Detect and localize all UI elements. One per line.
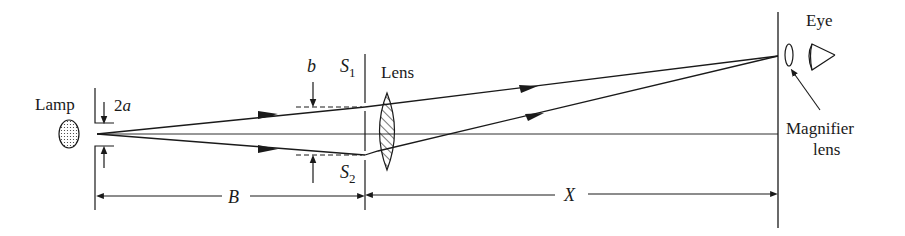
magnifier-pointer [793, 72, 820, 110]
source-slit [95, 88, 114, 210]
magnifier-label-line2: lens [813, 140, 840, 159]
ray-arrow-icon [258, 111, 278, 119]
lamp-label: Lamp [35, 95, 75, 114]
eye-icon [809, 44, 835, 70]
slit2-label: S2 [340, 162, 356, 186]
ray-arrow-icon [519, 85, 538, 93]
magnifier-lens-icon [785, 44, 793, 66]
slit-spacing-label: b [307, 56, 316, 76]
slit-spacing-markers [296, 107, 362, 155]
ray-arrow-icon [258, 145, 278, 153]
slit1-label: S1 [340, 56, 356, 80]
magnifier-label-line1: Magnifier [786, 119, 854, 138]
lamp-bulb-icon [59, 120, 79, 148]
incident-rays [97, 107, 365, 155]
eye-label: Eye [806, 11, 832, 30]
double-slit-diagram: Lamp 2a b S1 S2 Lens [0, 0, 905, 236]
lamp: Lamp [35, 95, 79, 148]
transmitted-rays [365, 56, 778, 155]
slit-width-label: 2a [114, 96, 131, 115]
lens-label: Lens [381, 63, 414, 82]
distance-b-label: B [228, 187, 239, 207]
ray-arrow-icon [525, 113, 544, 121]
distance-x-label: X [563, 185, 576, 205]
